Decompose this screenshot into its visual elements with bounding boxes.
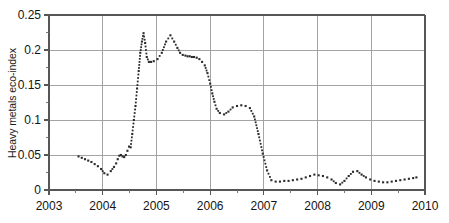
data-point	[283, 180, 285, 182]
data-point	[250, 110, 252, 112]
data-point	[206, 70, 208, 72]
data-point	[326, 176, 328, 178]
data-point	[102, 170, 104, 172]
data-point	[159, 55, 161, 57]
data-point	[142, 32, 144, 34]
data-point	[139, 55, 141, 57]
data-point	[150, 61, 152, 63]
data-point	[363, 175, 365, 177]
data-point	[144, 39, 146, 41]
data-point	[81, 157, 83, 159]
data-point	[223, 113, 225, 115]
x-axis-tick-label: 2004	[89, 199, 116, 213]
data-point	[167, 38, 169, 40]
data-point	[173, 41, 175, 43]
data-point	[408, 178, 410, 180]
data-point	[361, 174, 363, 176]
data-point	[132, 126, 134, 128]
data-point	[261, 149, 263, 151]
data-point	[100, 168, 102, 170]
data-point	[318, 174, 320, 176]
data-point	[264, 159, 266, 161]
data-point	[230, 109, 232, 111]
data-point	[134, 109, 136, 111]
data-point	[193, 56, 195, 58]
data-point	[211, 92, 213, 94]
data-point	[140, 49, 142, 51]
data-point	[211, 89, 213, 91]
data-point	[176, 47, 178, 49]
data-point	[279, 181, 281, 183]
data-point	[227, 111, 229, 113]
data-point	[135, 98, 137, 100]
data-point	[322, 175, 324, 177]
data-point	[296, 178, 298, 180]
data-point	[260, 146, 262, 148]
data-point	[131, 133, 133, 135]
data-point	[164, 44, 166, 46]
x-axis-tick-label: 2006	[197, 199, 224, 213]
data-point	[339, 183, 341, 185]
y-axis-tick-label: 0.1	[24, 113, 41, 127]
data-point	[359, 172, 361, 174]
data-point	[275, 181, 277, 183]
data-point	[253, 115, 255, 117]
data-point	[378, 181, 380, 183]
data-point	[153, 60, 155, 62]
data-point	[219, 112, 221, 114]
data-point	[208, 79, 210, 81]
data-point	[232, 106, 234, 108]
data-point	[212, 95, 214, 97]
data-point	[138, 67, 140, 69]
data-point	[270, 179, 272, 181]
data-point	[117, 158, 119, 160]
data-point	[131, 136, 133, 138]
data-point	[84, 158, 86, 160]
data-point	[365, 176, 367, 178]
y-axis-tick-label: 0.25	[18, 8, 42, 22]
data-point	[348, 175, 350, 177]
data-point	[198, 58, 200, 60]
data-point	[292, 179, 294, 181]
data-point	[139, 52, 141, 54]
data-point	[107, 174, 109, 176]
data-point	[252, 113, 254, 115]
data-point	[309, 175, 311, 177]
data-point	[133, 116, 135, 118]
data-point	[137, 77, 139, 79]
data-point	[145, 49, 147, 51]
data-point	[146, 56, 148, 58]
data-point	[350, 173, 352, 175]
data-point	[133, 123, 135, 125]
data-point	[264, 163, 266, 165]
y-axis-tick-label: 0.2	[24, 43, 41, 57]
data-point	[77, 155, 79, 157]
data-point	[412, 177, 414, 179]
data-point	[165, 41, 167, 43]
data-point	[136, 95, 138, 97]
data-point	[184, 55, 186, 57]
data-point	[171, 38, 173, 40]
data-point	[259, 140, 261, 142]
data-point	[182, 54, 184, 56]
x-axis-tick-label: 2007	[251, 199, 278, 213]
data-point	[141, 44, 143, 46]
data-point	[382, 181, 384, 183]
data-point	[94, 163, 96, 165]
data-point	[415, 176, 417, 178]
data-point	[245, 105, 247, 107]
data-point	[137, 81, 139, 83]
data-point	[132, 130, 134, 132]
data-point	[125, 154, 127, 156]
data-point	[139, 61, 141, 63]
data-point	[115, 162, 117, 164]
data-point	[103, 172, 105, 174]
data-point	[330, 178, 332, 180]
y-axis-title: Heavy metals eco-index	[6, 47, 18, 158]
data-point	[288, 180, 290, 182]
data-point	[126, 150, 128, 152]
data-point	[201, 61, 203, 63]
data-point	[113, 166, 115, 168]
data-point	[138, 64, 140, 66]
data-point	[148, 61, 150, 63]
